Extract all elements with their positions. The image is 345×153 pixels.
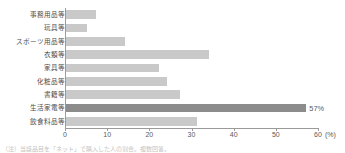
- bar-value-label: 57%: [309, 103, 324, 112]
- x-tick-label: 0: [63, 131, 67, 138]
- bar-rows: 事務用品等玩具等スポーツ用品等衣類等家具等化粧品等書籍等生活家電等57%飲食料品…: [0, 8, 345, 128]
- category-label: 事務用品等: [1, 8, 65, 21]
- bar-track: [66, 64, 159, 73]
- bar: [66, 117, 197, 126]
- bar-track: [66, 24, 87, 33]
- bar-row: 書籍等: [0, 88, 345, 101]
- x-tick-label: 30: [188, 131, 196, 138]
- category-label: スポーツ用品等: [1, 35, 65, 48]
- category-label: 衣類等: [1, 48, 65, 61]
- bar: [66, 64, 159, 73]
- category-label: 飲食料品等: [1, 115, 65, 128]
- bar-track: [66, 37, 125, 46]
- x-tick-label: 50: [272, 131, 280, 138]
- x-tick-label: 20: [145, 131, 153, 138]
- bar-row: スポーツ用品等: [0, 35, 345, 48]
- category-label: 玩具等: [1, 21, 65, 34]
- chart-footnote: （注）当該品目を「ネット」で購入した人の割合。複数回答。: [2, 146, 343, 153]
- bar: [66, 104, 306, 113]
- bar-chart: 事務用品等玩具等スポーツ用品等衣類等家具等化粧品等書籍等生活家電等57%飲食料品…: [0, 0, 345, 153]
- x-tick-label: 60: [314, 131, 322, 138]
- category-label: 家具等: [1, 61, 65, 74]
- x-axis-ticks: 0102030405060: [0, 128, 345, 142]
- x-tick-label: 40: [230, 131, 238, 138]
- bar: [66, 77, 167, 86]
- bar-track: [66, 117, 197, 126]
- x-axis-unit-label: (%): [325, 131, 336, 138]
- category-label: 生活家電等: [1, 101, 65, 114]
- category-label: 書籍等: [1, 88, 65, 101]
- bar-track: [66, 77, 167, 86]
- bar: [66, 90, 180, 99]
- bar-track: 57%: [66, 104, 306, 113]
- bar: [66, 24, 87, 33]
- bar-row: 家具等: [0, 61, 345, 74]
- bar-track: [66, 50, 209, 59]
- bar-row: 玩具等: [0, 21, 345, 34]
- bar-row: 生活家電等57%: [0, 101, 345, 114]
- category-label: 化粧品等: [1, 75, 65, 88]
- bar-row: 化粧品等: [0, 75, 345, 88]
- x-tick-label: 10: [103, 131, 111, 138]
- bar-row: 飲食料品等: [0, 115, 345, 128]
- bar: [66, 50, 209, 59]
- bar-track: [66, 90, 180, 99]
- bar-row: 衣類等: [0, 48, 345, 61]
- bar: [66, 10, 96, 19]
- bar-row: 事務用品等: [0, 8, 345, 21]
- bar-track: [66, 10, 96, 19]
- bar: [66, 37, 125, 46]
